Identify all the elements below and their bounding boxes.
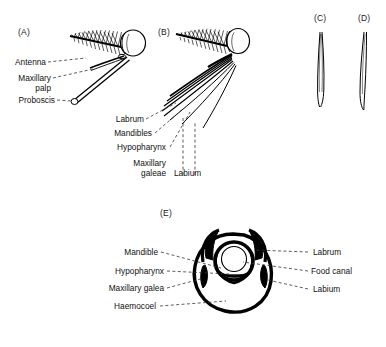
panel-e-label-hypopharynx: Hypopharynx [66,266,164,276]
panel-e-label-maxillary-galea: Maxillary galea [52,283,164,293]
panel-e-label-mandible: Mandible [70,247,158,257]
panel-b-drawing [146,29,250,176]
panel-e-label-food-canal: Food canal [311,266,352,276]
insect-mouthparts-figure: (A) (B) (C) (D) (E) Antenna Maxillary pa… [0,0,386,347]
panel-letter-b: (B) [158,27,170,37]
panel-e-drawing [160,230,308,312]
panel-b-label-labrum: Labrum [96,114,144,124]
panel-e-label-labium: Labium [313,284,340,294]
panel-a-label-proboscis: Proboscis [0,95,55,105]
panel-d-drawing [360,32,367,110]
panel-e-label-haemocoel: Haemocoel [62,301,156,311]
panel-a-label-antenna: Antenna [0,57,46,67]
panel-b-label-hypopharynx: Hypopharynx [90,142,166,152]
panel-b-label-labium: Labium [174,168,201,178]
panel-a-label-maxillary-palp-line1: Maxillary [0,73,51,83]
panel-b-label-maxillary-galeae-line1: Maxillary [112,158,166,168]
panel-a-drawing [48,30,146,105]
panel-letter-a: (A) [18,27,30,37]
panel-letter-c: (C) [314,13,326,23]
panel-letter-d: (D) [358,13,370,23]
panel-e-label-labrum: Labrum [313,247,341,257]
panel-c-drawing [318,32,324,107]
panel-b-label-mandibles: Mandibles [90,128,152,138]
panel-a-label-maxillary-palp-line2: palp [0,83,51,93]
panel-b-label-maxillary-galeae-line2: galeae [112,168,166,178]
panel-letter-e: (E) [160,208,172,218]
